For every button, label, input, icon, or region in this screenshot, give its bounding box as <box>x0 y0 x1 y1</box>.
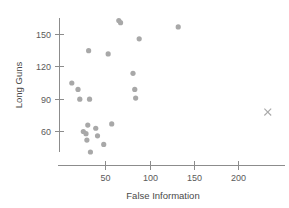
data-point <box>106 51 111 56</box>
data-point <box>77 97 82 102</box>
data-point <box>132 87 137 92</box>
data-point <box>84 138 89 143</box>
scatter-plot-figure: 150 120 90 60 Long Guns 50 100 150 200 F… <box>0 0 289 208</box>
data-point <box>137 36 142 41</box>
y-tick-label-150: 150 <box>36 30 51 40</box>
chart-canvas: 150 120 90 60 Long Guns 50 100 150 200 F… <box>0 0 289 208</box>
outlier-x-marker <box>264 109 271 116</box>
y-axis-title: Long Guns <box>13 62 24 109</box>
data-point <box>130 71 135 76</box>
data-point <box>176 24 181 29</box>
data-point <box>75 87 80 92</box>
data-point <box>83 131 88 136</box>
data-point <box>118 20 123 25</box>
data-point <box>93 126 98 131</box>
data-point <box>95 133 100 138</box>
data-point <box>86 48 91 53</box>
y-tick-label-120: 120 <box>36 62 51 72</box>
x-tick-label-200: 200 <box>231 173 246 183</box>
x-tick-label-150: 150 <box>187 173 202 183</box>
data-point <box>109 121 114 126</box>
data-point <box>87 97 92 102</box>
x-axis: 50 100 150 200 False Information <box>58 161 285 201</box>
y-tick-label-60: 60 <box>41 127 51 137</box>
data-point <box>101 142 106 147</box>
data-point <box>69 80 74 85</box>
y-axis: 150 120 90 60 Long Guns <box>13 18 64 152</box>
data-point <box>133 95 138 100</box>
data-point <box>88 149 93 154</box>
data-points-layer <box>69 18 271 155</box>
x-axis-title: False Information <box>126 190 199 201</box>
x-tick-label-100: 100 <box>143 173 158 183</box>
y-tick-label-90: 90 <box>41 95 51 105</box>
x-tick-label-50: 50 <box>100 173 110 183</box>
data-point <box>85 122 90 127</box>
